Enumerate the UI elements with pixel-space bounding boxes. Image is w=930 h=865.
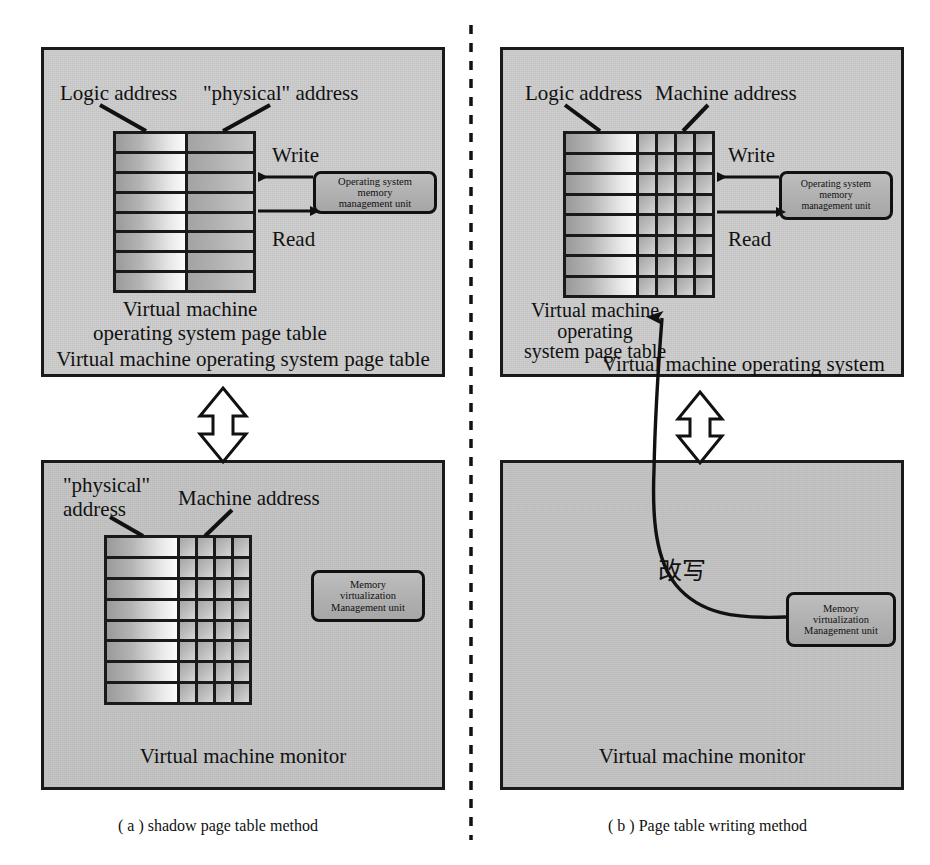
- page-table-cell: [116, 270, 185, 290]
- mvmu-line-2: virtualization: [331, 590, 405, 601]
- page-table-cell: [116, 211, 185, 231]
- page-table-cell: [180, 538, 195, 556]
- mvmu-line-3: Management unit: [804, 625, 878, 636]
- page-table-cell: [234, 681, 249, 702]
- label-write-a: Write: [272, 144, 319, 168]
- label-table-caption-b1: Virtual machine: [505, 299, 685, 321]
- page-table-cell: [216, 681, 231, 702]
- page-table-cell: [566, 213, 636, 234]
- page-table-cell: [180, 639, 195, 660]
- page-table-cell: [639, 213, 655, 234]
- page-table-cell: [116, 250, 185, 270]
- page-table-cell: [198, 556, 213, 577]
- bidirectional-arrow-b: [678, 392, 722, 463]
- page-table-cell: [677, 275, 693, 296]
- page-table-cell: [107, 598, 177, 619]
- page-table-cell: [188, 270, 254, 290]
- page-table-cell: [180, 598, 195, 619]
- page-table-cell: [188, 134, 254, 151]
- page-table-cell: [198, 660, 213, 681]
- page-table-column-logic-address: [566, 134, 636, 295]
- page-table-cell: [677, 254, 693, 275]
- page-table-cell: [198, 619, 213, 640]
- page-table-column-physical-address: [107, 538, 177, 702]
- page-table-cell: [180, 556, 195, 577]
- page-table-cell: [639, 134, 655, 152]
- page-table-cell: [234, 619, 249, 640]
- page-table-cell: [696, 275, 712, 296]
- page-table-cell: [639, 254, 655, 275]
- os-memory-management-unit-box-b: Operating system memory management unit: [779, 171, 893, 220]
- label-rewrite-chinese: 改写: [658, 558, 706, 585]
- page-table-cell: [677, 234, 693, 255]
- page-table-cell: [658, 275, 674, 296]
- page-table-column-machine-address-4: [231, 538, 249, 702]
- label-physical-address-vmm-l2: address: [63, 498, 126, 522]
- page-table-cell: [658, 172, 674, 193]
- page-table-cell: [116, 151, 185, 171]
- page-table-cell: [180, 660, 195, 681]
- page-table-cell: [566, 275, 636, 296]
- page-table-cell: [216, 660, 231, 681]
- page-table-cell: [234, 598, 249, 619]
- page-table-cell: [216, 538, 231, 556]
- page-table-cell: [677, 172, 693, 193]
- page-table-column-machine-address-2: [655, 134, 674, 295]
- mvmu-line-2: virtualization: [804, 614, 878, 625]
- page-table-cell: [234, 556, 249, 577]
- figure-caption-a: ( a ) shadow page table method: [118, 817, 318, 835]
- label-panel-caption-a-bottom: Virtual machine monitor: [47, 745, 439, 769]
- page-table-vmm-a: [104, 535, 252, 705]
- label-read-b: Read: [728, 228, 771, 252]
- page-table-cell: [116, 230, 185, 250]
- page-table-cell: [188, 151, 254, 171]
- label-write-b: Write: [728, 144, 775, 168]
- page-table-cell: [658, 234, 674, 255]
- page-table-column-machine-address-4: [693, 134, 712, 295]
- page-table-cell: [234, 538, 249, 556]
- label-panel-caption-b-bottom: Virtual machine monitor: [506, 745, 898, 769]
- page-table-cell: [658, 193, 674, 214]
- page-table-cell: [107, 639, 177, 660]
- page-table-cell: [180, 577, 195, 598]
- memory-virtualization-management-unit-box-a: Memory virtualization Management unit: [311, 570, 425, 622]
- page-table-column-logic-address: [116, 134, 185, 290]
- label-logic-address-b: Logic address: [525, 82, 642, 106]
- page-table-cell: [198, 598, 213, 619]
- page-table-cell: [188, 211, 254, 231]
- label-machine-address-b: Machine address: [655, 82, 797, 106]
- label-physical-address: "physical" address: [203, 82, 358, 106]
- page-table-cell: [639, 172, 655, 193]
- page-table-cell: [188, 250, 254, 270]
- page-table-cell: [198, 538, 213, 556]
- page-table-column-machine-address-3: [213, 538, 231, 702]
- page-table-cell: [216, 639, 231, 660]
- page-table-cell: [677, 213, 693, 234]
- page-table-cell: [658, 134, 674, 152]
- page-table-cell: [107, 660, 177, 681]
- page-table-cell: [658, 213, 674, 234]
- page-table-cell: [566, 193, 636, 214]
- page-table-cell: [216, 556, 231, 577]
- page-table-cell: [658, 152, 674, 173]
- page-table-cell: [107, 556, 177, 577]
- mvmu-line-3: Management unit: [331, 602, 405, 613]
- label-table-caption-a1: Virtual machine: [110, 298, 270, 322]
- label-physical-address-vmm-l1: "physical": [63, 474, 150, 498]
- page-table-cell: [116, 134, 185, 151]
- page-table-vm-os-a: [113, 131, 256, 293]
- page-table-vm-os-b: [563, 131, 715, 298]
- page-table-cell: [677, 193, 693, 214]
- label-machine-address-vmm: Machine address: [178, 487, 320, 511]
- page-table-cell: [107, 577, 177, 598]
- page-table-cell: [658, 254, 674, 275]
- page-table-cell: [180, 619, 195, 640]
- page-table-cell: [216, 619, 231, 640]
- page-table-cell: [198, 639, 213, 660]
- page-table-cell: [639, 152, 655, 173]
- page-table-cell: [216, 598, 231, 619]
- page-table-column-machine-address-2: [195, 538, 213, 702]
- page-table-cell: [566, 254, 636, 275]
- page-table-cell: [107, 681, 177, 702]
- page-table-cell: [107, 619, 177, 640]
